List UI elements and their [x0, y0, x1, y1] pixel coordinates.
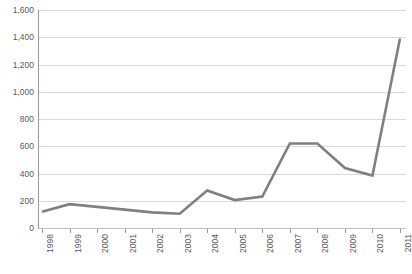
x-tick-mark: [372, 229, 373, 233]
x-tick-mark: [125, 229, 126, 233]
x-tick-mark: [97, 229, 98, 233]
x-tick-label: 2010: [376, 234, 385, 253]
x-tick-label: 1998: [46, 234, 55, 253]
x-tick-label: 2004: [211, 234, 220, 253]
x-axis-tick-labels: 1998199920002001200220032004200520062007…: [0, 234, 412, 274]
x-tick-mark: [180, 229, 181, 233]
x-tick-mark: [262, 229, 263, 233]
x-tick-label: 2000: [101, 234, 110, 253]
x-tick-label: 2008: [321, 234, 330, 253]
x-tick-mark: [290, 229, 291, 233]
x-tick-label: 2002: [156, 234, 165, 253]
x-tick-mark: [70, 229, 71, 233]
x-tick-mark: [400, 229, 401, 233]
x-tick-label: 2011: [404, 234, 412, 252]
line-chart: 02004006008001,0001,2001,4001,600 199819…: [0, 0, 412, 274]
x-tick-mark: [42, 229, 43, 233]
x-tick-mark: [152, 229, 153, 233]
x-tick-label: 2001: [129, 234, 138, 253]
x-tick-label: 2005: [239, 234, 248, 253]
x-tick-label: 2009: [349, 234, 358, 253]
x-tick-label: 2003: [184, 234, 193, 253]
x-tick-label: 2007: [294, 234, 303, 253]
x-tick-mark: [345, 229, 346, 233]
data-series-line: [0, 0, 412, 274]
x-tick-mark: [235, 229, 236, 233]
x-tick-label: 1999: [74, 234, 83, 253]
x-tick-mark: [317, 229, 318, 233]
x-tick-mark: [207, 229, 208, 233]
x-tick-label: 2006: [266, 234, 275, 253]
